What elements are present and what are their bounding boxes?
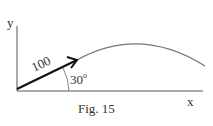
x-axis-label: x — [187, 94, 194, 109]
angle-unit: o — [83, 71, 87, 80]
y-axis-label: y — [7, 15, 14, 30]
figure-caption: Fig. 15 — [78, 101, 115, 116]
angle-arc — [63, 68, 69, 91]
velocity-label: 100 — [29, 53, 53, 75]
angle-label: 30o — [70, 71, 87, 87]
angle-value: 30 — [70, 72, 83, 87]
trajectory-curve — [77, 44, 205, 66]
projectile-diagram: y x 100 30o Fig. 15 — [0, 0, 213, 126]
